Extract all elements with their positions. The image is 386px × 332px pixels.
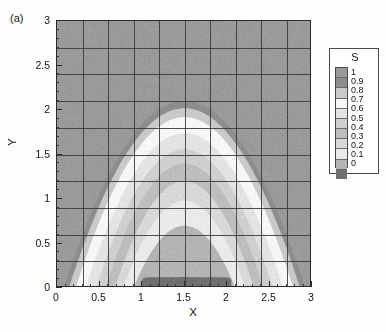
y-axis-minor-tick (56, 56, 59, 57)
y-axis-major-tick (56, 20, 62, 21)
x-axis-minor-tick (82, 284, 83, 287)
y-axis-minor-tick (56, 234, 59, 235)
y-axis-minor-tick (56, 251, 59, 252)
y-axis-minor-tick (56, 269, 59, 270)
x-axis-tick-label: 1.5 (169, 291, 199, 303)
x-axis-minor-tick (124, 284, 125, 287)
y-axis-major-tick (56, 243, 62, 244)
colorbar-band (336, 148, 347, 158)
x-axis-minor-tick (133, 284, 134, 287)
x-axis-tick-label: 1 (126, 291, 156, 303)
x-axis-tick-label: 2.5 (254, 291, 284, 303)
x-axis-major-tick (311, 281, 312, 287)
y-axis-tick-label: 3 (16, 14, 50, 26)
x-axis-minor-tick (303, 284, 304, 287)
y-axis-title: Y (6, 138, 18, 146)
x-axis-minor-tick (235, 284, 236, 287)
x-axis-minor-tick (201, 284, 202, 287)
y-axis-minor-tick (56, 189, 59, 190)
y-axis-minor-tick (56, 100, 59, 101)
y-axis-minor-tick (56, 73, 59, 74)
x-axis-minor-tick (65, 284, 66, 287)
colorbar-band (336, 128, 347, 138)
x-axis-minor-tick (277, 284, 278, 287)
colorbar-tick-label: 0 (351, 158, 356, 168)
y-axis-tick-label: 0.5 (16, 237, 50, 249)
x-axis-minor-tick (150, 284, 151, 287)
x-axis-minor-tick (107, 284, 108, 287)
y-axis-minor-tick (56, 38, 59, 39)
colorbar-band (336, 169, 347, 179)
y-axis-minor-tick (56, 225, 59, 226)
y-axis-minor-tick (56, 91, 59, 92)
colorbar-legend: S 10.90.80.70.60.50.40.30.20.10 (329, 48, 379, 174)
y-axis-tick-label: 2 (16, 103, 50, 115)
colorbar-swatch-strip (335, 67, 348, 168)
x-axis-minor-tick (260, 284, 261, 287)
legend-title: S (330, 51, 380, 63)
y-axis-tick-label: 1 (16, 192, 50, 204)
x-axis-minor-tick (116, 284, 117, 287)
y-axis-tick-label: 1.5 (16, 148, 50, 160)
y-axis-minor-tick (56, 127, 59, 128)
x-axis-minor-tick (252, 284, 253, 287)
colorbar-band (336, 87, 347, 97)
x-axis-major-tick (184, 281, 185, 287)
x-axis-tick-label: 2 (211, 291, 241, 303)
y-axis-minor-tick (56, 136, 59, 137)
y-axis-minor-tick (56, 278, 59, 279)
x-axis-minor-tick (90, 284, 91, 287)
y-axis-minor-tick (56, 118, 59, 119)
colorbar-band (336, 159, 347, 169)
colorbar-tick-labels: 10.90.80.70.60.50.40.30.20.10 (351, 67, 379, 168)
y-axis-tick-label: 2.5 (16, 59, 50, 71)
y-axis-major-tick (56, 109, 62, 110)
y-axis-minor-tick (56, 82, 59, 83)
x-axis-major-tick (99, 281, 100, 287)
x-axis-minor-tick (158, 284, 159, 287)
x-axis-major-tick (269, 281, 270, 287)
y-axis-minor-tick (56, 162, 59, 163)
y-axis-major-tick (56, 65, 62, 66)
y-axis-minor-tick (56, 145, 59, 146)
x-axis-major-tick (56, 281, 57, 287)
y-axis-minor-tick (56, 171, 59, 172)
y-axis-major-tick (56, 198, 62, 199)
x-axis-minor-tick (294, 284, 295, 287)
colorbar-band (336, 77, 347, 87)
x-axis-tick-label: 0.5 (84, 291, 114, 303)
x-axis-tick-label: 0 (41, 291, 71, 303)
colorbar-band (336, 98, 347, 108)
y-axis-minor-tick (56, 207, 59, 208)
x-axis-minor-tick (175, 284, 176, 287)
y-axis-minor-tick (56, 180, 59, 181)
y-axis-minor-tick (56, 216, 59, 217)
x-axis-tick-label: 3 (296, 291, 326, 303)
x-axis-minor-tick (209, 284, 210, 287)
x-axis-minor-tick (243, 284, 244, 287)
figure-panel-a: (a) 00.511.522.53 00.511.522.53 Y X S 10… (0, 0, 386, 332)
x-axis-major-tick (141, 281, 142, 287)
colorbar-band (336, 118, 347, 128)
x-axis-title: X (0, 306, 386, 318)
colorbar-band (336, 68, 347, 77)
mesh-grid-canvas (57, 21, 311, 287)
contour-plot-area (56, 20, 311, 287)
y-axis-major-tick (56, 154, 62, 155)
x-axis-minor-tick (167, 284, 168, 287)
x-axis-minor-tick (286, 284, 287, 287)
colorbar-band (336, 108, 347, 118)
x-axis-minor-tick (192, 284, 193, 287)
x-axis-minor-tick (218, 284, 219, 287)
y-axis-minor-tick (56, 29, 59, 30)
colorbar-band (336, 138, 347, 148)
y-axis-minor-tick (56, 260, 59, 261)
y-axis-minor-tick (56, 47, 59, 48)
x-axis-major-tick (226, 281, 227, 287)
x-axis-minor-tick (73, 284, 74, 287)
y-axis-major-tick (56, 287, 62, 288)
